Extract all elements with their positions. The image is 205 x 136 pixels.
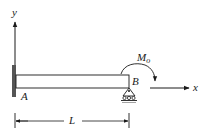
point-b-label: B <box>132 76 139 87</box>
diagram-graphics <box>0 0 205 136</box>
moment-label-main: M <box>137 51 146 63</box>
beam-diagram: y A B Mo x L <box>0 0 205 136</box>
roller-support-icon <box>121 88 137 103</box>
moment-label-sub: o <box>146 56 150 65</box>
beam <box>16 75 129 88</box>
length-label: L <box>69 115 75 126</box>
point-a-label: A <box>21 91 28 102</box>
fixed-wall-icon <box>12 65 16 97</box>
y-axis-label: y <box>12 7 17 18</box>
x-axis-label: x <box>193 82 198 93</box>
moment-label: Mo <box>137 52 150 65</box>
